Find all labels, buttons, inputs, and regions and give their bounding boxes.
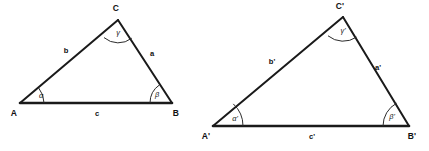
side-label-b-prime: b' — [269, 57, 276, 66]
vertex-label-c-prime: C' — [336, 1, 345, 11]
side-b-prime-line — [213, 17, 343, 126]
side-label-c: c — [95, 109, 99, 118]
side-a-line — [118, 20, 172, 103]
vertex-label-a-prime: A' — [202, 131, 211, 141]
triangle-abc: A B C a b c α β γ — [11, 3, 179, 118]
angle-gamma-arc — [104, 38, 132, 43]
side-label-a: a — [150, 49, 155, 58]
side-label-a-prime: a' — [375, 63, 381, 72]
vertex-label-c: C — [113, 3, 119, 13]
angle-label-gamma: γ — [116, 28, 121, 37]
angle-gamma-prime-arc — [328, 36, 357, 41]
angle-label-alpha-prime: α' — [232, 114, 238, 123]
side-label-b: b — [64, 46, 69, 55]
triangle-abc-prime: A' B' C' a' b' c' α' β' γ' — [202, 1, 417, 141]
figure-canvas: A B C a b c α β γ A' — [0, 0, 429, 151]
side-label-c-prime: c' — [309, 132, 315, 141]
vertex-label-b: B — [173, 108, 179, 118]
geometry-figure: A B C a b c α β γ A' — [0, 0, 429, 151]
side-b-line — [20, 20, 118, 103]
vertex-label-a: A — [11, 108, 17, 118]
angle-label-gamma-prime: γ' — [340, 26, 346, 35]
angle-label-beta-prime: β' — [388, 112, 395, 121]
angle-label-beta: β — [154, 90, 160, 99]
vertex-label-b-prime: B' — [408, 131, 417, 141]
